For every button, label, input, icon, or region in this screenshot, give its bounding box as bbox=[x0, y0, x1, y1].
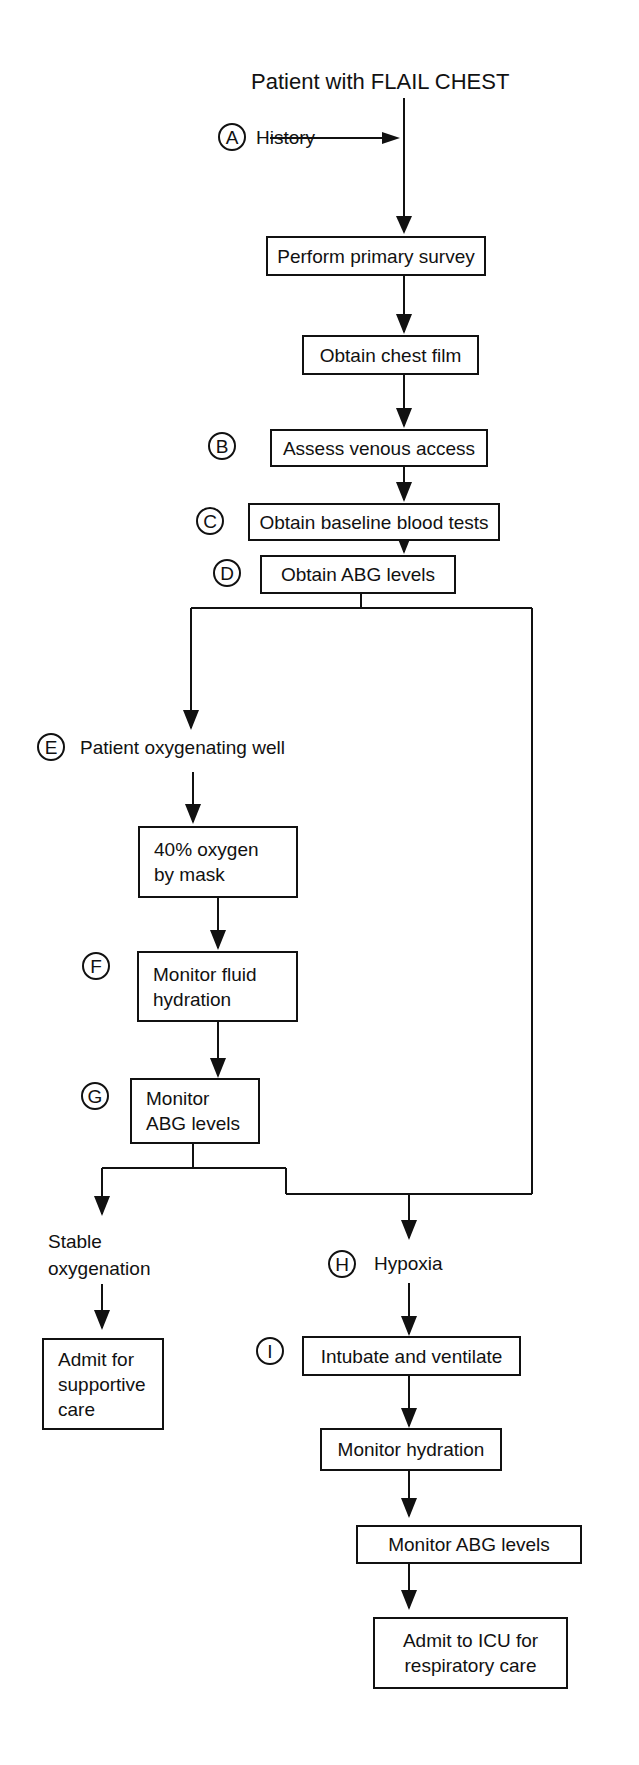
patient-oxygenating-well-label: Patient oxygenating well bbox=[80, 736, 285, 760]
marker-i: I bbox=[256, 1337, 284, 1365]
node-intubate-text: Intubate and ventilate bbox=[321, 1344, 503, 1369]
marker-a: A bbox=[218, 123, 246, 151]
marker-f: F bbox=[82, 952, 110, 980]
marker-e: E bbox=[37, 733, 65, 761]
node-abg-levels-text: Obtain ABG levels bbox=[281, 562, 435, 587]
node-baseline-blood-text: Obtain baseline blood tests bbox=[259, 510, 488, 535]
hypoxia-label: Hypoxia bbox=[374, 1252, 443, 1276]
node-admit-icu-text: Admit to ICU for respiratory care bbox=[403, 1628, 538, 1678]
node-monitor-abg-left-text: Monitor ABG levels bbox=[146, 1086, 240, 1136]
node-primary-survey-text: Perform primary survey bbox=[277, 244, 474, 269]
node-monitor-abg-right-text: Monitor ABG levels bbox=[388, 1532, 550, 1557]
marker-g: G bbox=[81, 1082, 109, 1110]
stable-oxygenation-label: Stable oxygenation bbox=[48, 1228, 150, 1282]
node-admit-supportive-text: Admit for supportive care bbox=[58, 1347, 146, 1422]
node-abg-levels: Obtain ABG levels bbox=[260, 555, 456, 594]
node-chest-film: Obtain chest film bbox=[302, 335, 479, 375]
node-oxygen-mask-text: 40% oxygen by mask bbox=[154, 837, 259, 887]
node-primary-survey: Perform primary survey bbox=[266, 236, 486, 276]
node-monitor-abg-right: Monitor ABG levels bbox=[356, 1525, 582, 1564]
node-monitor-hydration-text: Monitor hydration bbox=[338, 1437, 485, 1462]
marker-c: C bbox=[196, 507, 224, 535]
node-monitor-hydration: Monitor hydration bbox=[320, 1428, 502, 1471]
node-intubate: Intubate and ventilate bbox=[302, 1336, 521, 1376]
node-monitor-abg-left: Monitor ABG levels bbox=[130, 1078, 260, 1144]
node-baseline-blood: Obtain baseline blood tests bbox=[248, 503, 500, 541]
marker-h: H bbox=[328, 1250, 356, 1278]
node-fluid-hydration-text: Monitor fluid hydration bbox=[153, 962, 257, 1012]
node-fluid-hydration: Monitor fluid hydration bbox=[137, 951, 298, 1022]
node-oxygen-mask: 40% oxygen by mask bbox=[138, 826, 298, 898]
marker-b: B bbox=[208, 432, 236, 460]
flowchart-title: Patient with FLAIL CHEST bbox=[251, 70, 509, 94]
node-admit-supportive: Admit for supportive care bbox=[42, 1338, 164, 1430]
history-label: History bbox=[256, 126, 315, 150]
node-venous-access-text: Assess venous access bbox=[283, 436, 475, 461]
node-venous-access: Assess venous access bbox=[270, 429, 488, 467]
node-admit-icu: Admit to ICU for respiratory care bbox=[373, 1617, 568, 1689]
node-chest-film-text: Obtain chest film bbox=[320, 343, 462, 368]
marker-d: D bbox=[213, 559, 241, 587]
